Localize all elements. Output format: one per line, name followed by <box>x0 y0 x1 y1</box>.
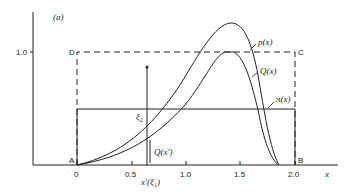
q-x-label: Q(x) <box>260 66 277 76</box>
p-x-label: p(x) <box>257 37 273 47</box>
corner-label-c: C <box>298 48 304 57</box>
corner-label-a: A <box>69 156 75 165</box>
pi-x-leader <box>268 102 274 108</box>
corner-label-d: D <box>69 48 75 57</box>
p-x-curve <box>77 23 279 165</box>
rejection-sampling-diagram: 1.0 0 0.5 1.0 1.5 2.0 x (a) D C A B p(x)… <box>0 0 358 196</box>
x-prime-label: x′(ξ₁) <box>140 177 160 187</box>
x-ticks <box>77 161 295 165</box>
sample-point-dot <box>146 66 149 69</box>
q-x-prime-label: Q(x′) <box>154 147 172 157</box>
corner-label-b: B <box>298 156 303 165</box>
x-axis-label: x <box>324 169 329 179</box>
q-x-leader <box>252 72 258 77</box>
panel-label: (a) <box>53 12 64 22</box>
x-tick-label-0-5: 0.5 <box>125 170 137 179</box>
xi2-label: ξ₂ <box>136 112 143 122</box>
y-tick-label-1: 1.0 <box>16 48 28 57</box>
pi-x-label: π(x) <box>276 94 291 104</box>
x-tick-label-0: 0 <box>74 170 79 179</box>
x-tick-label-1-5: 1.5 <box>234 170 246 179</box>
x-tick-label-1-0: 1.0 <box>180 170 192 179</box>
x-tick-label-2-0: 2.0 <box>288 170 300 179</box>
